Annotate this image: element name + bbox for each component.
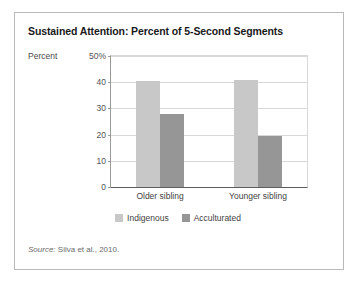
bar-indigenous-younger-sibling <box>234 80 258 187</box>
bar-acculturated-younger-sibling <box>258 136 282 187</box>
y-axis-label: 50% <box>89 51 106 61</box>
source-note: Source: Silva et al., 2010. <box>28 245 119 254</box>
y-axis-tick <box>108 108 111 109</box>
gridline <box>111 56 307 57</box>
legend-item-indigenous: Indigenous <box>115 213 169 223</box>
page-title: Sustained Attention: Percent of 5-Second… <box>28 25 328 37</box>
chart-legend: Indigenous Acculturated <box>28 213 328 223</box>
x-axis-label: Older sibling <box>136 191 183 201</box>
bar-indigenous-older-sibling <box>136 81 160 187</box>
y-axis-label: 30 <box>97 103 106 113</box>
y-axis-label: 20 <box>97 130 106 140</box>
y-axis-tick <box>108 135 111 136</box>
y-axis-tick <box>108 187 111 188</box>
source-label: Source: <box>28 245 56 254</box>
y-axis-tick <box>108 161 111 162</box>
bar-acculturated-older-sibling <box>160 114 184 187</box>
bar-chart: Percent 01020304050%Older siblingYounger… <box>28 51 328 211</box>
y-axis-label: 40 <box>97 77 106 87</box>
legend-item-acculturated: Acculturated <box>182 213 241 223</box>
plot-area: 01020304050%Older siblingYounger sibling <box>110 55 308 188</box>
source-citation: Silva et al., 2010. <box>58 245 119 254</box>
y-axis-label: 10 <box>97 156 106 166</box>
legend-swatch-indigenous <box>115 214 123 222</box>
y-axis-tick <box>108 56 111 57</box>
y-axis-title: Percent <box>28 51 57 61</box>
legend-swatch-acculturated <box>182 214 190 222</box>
x-axis-label: Younger sibling <box>229 191 287 201</box>
figure-frame: Sustained Attention: Percent of 5-Second… <box>14 12 344 270</box>
legend-label-acculturated: Acculturated <box>194 213 241 223</box>
legend-label-indigenous: Indigenous <box>127 213 169 223</box>
y-axis-label: 0 <box>101 182 106 192</box>
y-axis-tick <box>108 82 111 83</box>
